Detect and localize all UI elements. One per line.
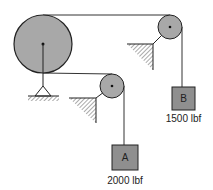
weight-a-label: A bbox=[122, 152, 129, 163]
pulley-b bbox=[158, 15, 182, 39]
weight-b-load: 1500 lbf bbox=[166, 113, 202, 124]
weight-a-load: 2000 lbf bbox=[107, 175, 143, 186]
rope-bottom bbox=[43, 73, 112, 74]
weight-b-label: B bbox=[180, 93, 187, 104]
weight-b: B 1500 lbf bbox=[166, 87, 202, 124]
large-pulley bbox=[14, 15, 72, 101]
pulley-a bbox=[100, 74, 124, 98]
weight-a: A 2000 lbf bbox=[107, 145, 143, 186]
pulley-diagram: B 1500 lbf A 2000 lbf bbox=[0, 0, 213, 190]
